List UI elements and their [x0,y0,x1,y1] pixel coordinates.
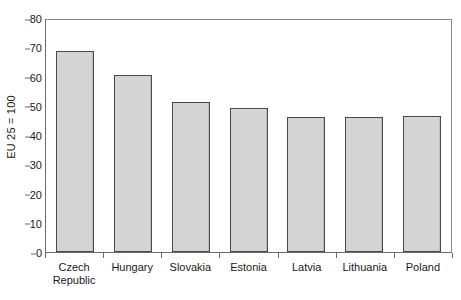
x-axis-tick-mark [103,253,104,258]
x-axis-category-label-line: Czech [45,261,103,274]
x-axis-tick-mark [452,253,453,258]
bar [172,102,210,252]
bar-slot [104,20,162,252]
y-axis-tick-mark [25,19,30,20]
x-axis-tick-mark [336,253,337,258]
y-axis-tick-label: 40 [30,131,42,142]
x-axis-category-label-line: Latvia [278,261,336,274]
y-axis-tick-label: 70 [30,43,42,54]
bar-slot [335,20,393,252]
bar [287,117,325,252]
bar-slot [162,20,220,252]
plot-area [45,19,452,253]
y-axis-tick-mark [25,195,30,196]
y-axis-tick-label: 0 [36,248,42,259]
bar-slot [277,20,335,252]
x-axis-tick-mark [45,253,46,258]
y-axis-tick-mark [25,78,30,79]
y-axis-tick-label: 30 [30,160,42,171]
y-axis-title-text: EU 25 = 100 [5,95,17,159]
bar [56,51,94,252]
x-axis-category-label-line: Estonia [219,261,277,274]
x-axis-category-label: CzechRepublic [45,259,103,299]
y-axis-tick-mark [25,165,30,166]
x-axis-category-label-line: Hungary [103,261,161,274]
bar [403,116,441,252]
x-axis-category-label-line: Slovakia [161,261,219,274]
x-axis-category-label-line: Poland [394,261,452,274]
y-axis-tick-label: 10 [30,218,42,229]
bar-slot [393,20,451,252]
x-axis-category-label: Latvia [278,259,336,299]
y-axis-tick-mark [25,107,30,108]
y-axis-tick-mark [31,253,36,254]
x-axis-category-label-line: Lithuania [336,261,394,274]
x-axis-tick-mark [161,253,162,258]
x-axis-category-label: Poland [394,259,452,299]
x-axis-tick-mark [219,253,220,258]
bars-layer [46,20,451,252]
bar [345,117,383,252]
x-axis-category-label: Slovakia [161,259,219,299]
bar [114,75,152,252]
y-axis-tick-label: 80 [30,14,42,25]
y-axis-tick-mark [25,224,30,225]
y-axis-tick-mark [25,48,30,49]
x-axis-category-label: Lithuania [336,259,394,299]
y-axis-tick-label: 20 [30,189,42,200]
x-axis-tick-mark [394,253,395,258]
y-axis-tick-mark [25,136,30,137]
y-axis-tick-labels: 01020304050607080 [18,0,42,260]
y-axis-tick-label: 50 [30,101,42,112]
x-axis-category-label: Estonia [219,259,277,299]
bar-slot [220,20,278,252]
bar-chart: EU 25 = 100 01020304050607080 CzechRepub… [0,0,461,300]
x-axis-category-label: Hungary [103,259,161,299]
x-axis-category-label-line: Republic [45,274,103,287]
x-axis-tick-mark [278,253,279,258]
bar [230,108,268,252]
y-axis-tick-label: 60 [30,72,42,83]
bar-slot [46,20,104,252]
x-axis-category-labels: CzechRepublicHungarySlovakiaEstoniaLatvi… [45,259,452,299]
